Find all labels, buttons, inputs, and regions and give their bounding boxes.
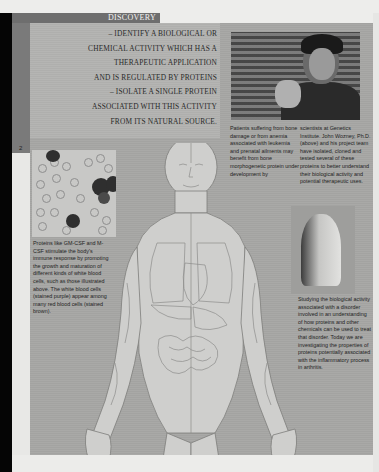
discovery-steps: – IDENTIFY A BIOLOGICAL OR CHEMICAL ACTI…: [34, 27, 217, 129]
red-blood-cell: [56, 190, 65, 199]
step-line: AND IS REGULATED BY PROTEINS: [34, 71, 217, 86]
red-blood-cell: [36, 208, 45, 217]
top-margin: [0, 0, 379, 13]
red-blood-cell: [50, 208, 59, 217]
step-line: FROM ITS NATURAL SOURCE.: [34, 115, 217, 130]
red-blood-cell: [38, 222, 47, 231]
photo-caption-col2: scientists at Genetics Institute. John W…: [300, 125, 372, 186]
side-margin: [12, 153, 30, 472]
step-line: ASSOCIATED WITH THIS ACTIVITY: [34, 100, 217, 115]
hand-shape: [301, 214, 341, 286]
right-margin: [373, 13, 379, 472]
page-edge: [0, 13, 12, 472]
anatomy-figure: [75, 143, 307, 472]
step-line: CHEMICAL ACTIVITY WHICH HAS A: [34, 42, 217, 57]
section-tab: DISCOVERY: [12, 13, 160, 23]
step-line: – IDENTIFY A BIOLOGICAL OR: [34, 27, 217, 42]
red-blood-cell: [62, 162, 71, 171]
red-blood-cell: [36, 180, 45, 189]
section-label: DISCOVERY: [108, 13, 156, 23]
scientist-photo: [231, 32, 360, 120]
bottom-margin: [12, 455, 379, 472]
page-number: 2: [19, 145, 22, 151]
red-blood-cell: [38, 164, 47, 173]
red-blood-cell: [42, 194, 51, 203]
person-hands: [275, 80, 301, 108]
side-band: 2: [12, 13, 30, 153]
step-line: THERAPEUTIC APPLICATION: [34, 56, 217, 71]
red-blood-cell: [52, 174, 61, 183]
step-line: – ISOLATE A SINGLE PROTEIN: [34, 85, 217, 100]
hand-caption: Studying the biological activity associa…: [298, 296, 372, 372]
white-blood-cell: [46, 150, 60, 162]
person-face: [309, 48, 335, 80]
